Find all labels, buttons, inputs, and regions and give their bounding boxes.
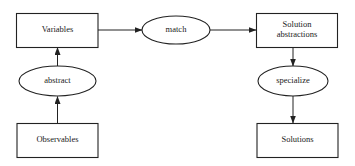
- solution-abstractions-label-line2: abstractions: [277, 29, 318, 39]
- abstract-label: abstract: [44, 75, 71, 85]
- flowchart-diagram: Variables match Solution abstractions ab…: [0, 0, 355, 166]
- node-abstract: abstract: [19, 66, 96, 96]
- observables-label: Observables: [36, 134, 78, 144]
- node-observables: Observables: [17, 124, 98, 158]
- node-specialize: specialize: [258, 66, 328, 96]
- node-variables: Variables: [17, 14, 99, 48]
- variables-label: Variables: [42, 24, 74, 34]
- node-solutions: Solutions: [257, 124, 338, 158]
- solutions-label: Solutions: [281, 134, 313, 144]
- match-label: match: [166, 24, 188, 34]
- specialize-label: specialize: [276, 75, 310, 85]
- node-solution-abstractions: Solution abstractions: [257, 14, 338, 48]
- node-match: match: [142, 16, 210, 44]
- solution-abstractions-label-line1: Solution: [283, 19, 313, 29]
